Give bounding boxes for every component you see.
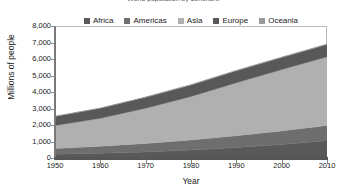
y-tick-label: 3,000	[32, 105, 51, 113]
y-tick-mark	[51, 92, 55, 93]
x-tick-label: 1970	[137, 161, 154, 170]
plot-area	[55, 26, 327, 158]
legend-item-africa[interactable]: Africa	[84, 17, 113, 25]
legend-label: Oceania	[268, 17, 298, 25]
y-tick-label: 5,000	[32, 72, 51, 80]
legend-swatch-icon	[213, 18, 219, 24]
y-tick-mark	[51, 76, 55, 77]
chart-legend: AfricaAmericasAsiaEuropeOceania	[55, 15, 327, 27]
x-axis-title: Year	[55, 176, 327, 186]
legend-label: Europe	[222, 17, 248, 25]
y-tick-mark	[51, 158, 55, 159]
x-tick-label: 2000	[273, 161, 290, 170]
y-tick-label: 7,000	[32, 39, 51, 47]
x-tick-label: 1990	[228, 161, 245, 170]
legend-item-asia[interactable]: Asia	[178, 17, 203, 25]
legend-item-oceania[interactable]: Oceania	[259, 17, 298, 25]
y-tick-mark	[51, 142, 55, 143]
y-axis-title: Millions of people	[6, 12, 16, 122]
y-axis-tick-labels: 01,0002,0003,0004,0005,0006,0007,0008,00…	[16, 26, 54, 158]
x-tick-label: 1960	[92, 161, 109, 170]
y-tick-mark	[51, 43, 55, 44]
x-tick-label: 2010	[319, 161, 336, 170]
legend-swatch-icon	[178, 18, 184, 24]
legend-item-americas[interactable]: Americas	[124, 17, 166, 25]
y-tick-label: 6,000	[32, 55, 51, 63]
chart-title: World population by continent	[0, 0, 346, 2]
x-tick-label: 1950	[47, 161, 64, 170]
legend-swatch-icon	[124, 18, 130, 24]
legend-label: Americas	[133, 17, 166, 25]
legend-swatch-icon	[259, 18, 265, 24]
y-tick-label: 1,000	[32, 138, 51, 146]
legend-label: Asia	[187, 17, 203, 25]
stacked-area-chart: World population by continent Millions o…	[0, 0, 346, 193]
x-tick-label: 1980	[183, 161, 200, 170]
y-tick-label: 8,000	[32, 22, 51, 30]
legend-label: Africa	[93, 17, 113, 25]
y-tick-mark	[51, 125, 55, 126]
legend-swatch-icon	[84, 18, 90, 24]
y-tick-label: 2,000	[32, 121, 51, 129]
x-axis-tick-labels: 1950196019701980199020002010	[0, 161, 346, 173]
legend-item-europe[interactable]: Europe	[213, 17, 248, 25]
y-tick-mark	[51, 59, 55, 60]
y-tick-label: 4,000	[32, 88, 51, 96]
y-tick-mark	[51, 109, 55, 110]
